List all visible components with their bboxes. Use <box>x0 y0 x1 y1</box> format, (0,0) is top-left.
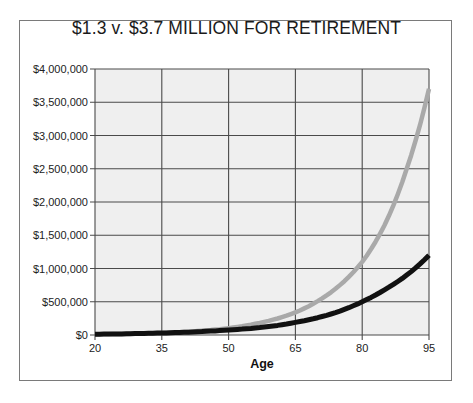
y-tick-label: $2,500,000 <box>33 163 88 175</box>
y-tick-label: $4,000,000 <box>33 63 88 75</box>
y-tick-label: $1,500,000 <box>33 229 88 241</box>
y-axis-ticks: $0$500,000$1,000,000$1,500,000$2,000,000… <box>33 63 88 341</box>
x-tick-label: 20 <box>89 342 101 354</box>
line-chart: $0$500,000$1,000,000$1,500,000$2,000,000… <box>0 0 473 403</box>
y-tick-label: $1,000,000 <box>33 263 88 275</box>
x-tick-label: 80 <box>356 342 368 354</box>
y-tick-label: $2,000,000 <box>33 196 88 208</box>
x-tick-label: 65 <box>289 342 301 354</box>
x-tick-label: 95 <box>423 342 435 354</box>
y-tick-label: $0 <box>76 329 88 341</box>
y-tick-label: $500,000 <box>42 296 88 308</box>
y-tick-label: $3,500,000 <box>33 96 88 108</box>
y-tick-label: $3,000,000 <box>33 130 88 142</box>
x-axis-ticks: 203550658095 <box>89 342 435 354</box>
x-axis-label: Age <box>250 357 274 371</box>
x-tick-label: 50 <box>222 342 234 354</box>
x-tick-label: 35 <box>156 342 168 354</box>
